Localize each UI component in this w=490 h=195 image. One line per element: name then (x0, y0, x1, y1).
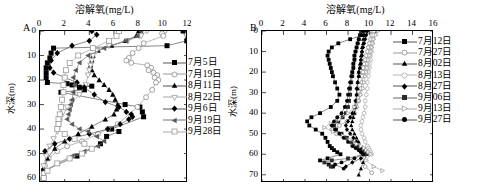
legend-marker-icon (163, 80, 187, 91)
panel-b: 溶解氧(mg/L) B 0246810121416 01020304050607… (245, 0, 490, 195)
legend-item[interactable]: 7月12日 (393, 36, 452, 47)
legend-item[interactable]: 7月27日 (393, 47, 452, 58)
y-tick-label: 30 (17, 99, 36, 109)
x-tick-label: 2 (61, 18, 66, 28)
y-tick-label: 50 (17, 148, 36, 158)
x-tick-label: 0 (37, 18, 42, 28)
legend-marker-icon (393, 81, 417, 92)
legend-label: 8月13日 (417, 70, 452, 81)
legend-item[interactable]: 7月5日 (163, 57, 222, 69)
legend-item[interactable]: 8月02日 (393, 58, 452, 69)
legend-label: 7月19日 (187, 69, 222, 80)
y-tick-label: 10 (17, 50, 36, 60)
panel-a: 溶解氧(mg/L) A 024681012 0102030405060 水深(m… (0, 0, 245, 195)
x-tick-label: 12 (386, 18, 395, 28)
legend-item[interactable]: 8月27日 (393, 81, 452, 92)
dissolved-oxygen-depth-profile-figure: 溶解氧(mg/L) A 024681012 0102030405060 水深(m… (0, 0, 490, 195)
legend-marker-icon (163, 103, 187, 114)
legend-label: 7月5日 (187, 57, 218, 68)
panel-a-y-axis-title: 水深(m) (4, 83, 17, 114)
legend-marker-icon (393, 58, 417, 69)
legend-label: 8月02日 (417, 58, 452, 69)
legend-label: 9月06日 (417, 92, 452, 103)
legend-label: 7月27日 (417, 47, 452, 58)
legend-marker-icon (393, 92, 417, 103)
x-tick-label: 6 (111, 18, 116, 28)
legend-marker-icon (163, 126, 187, 137)
y-tick-label: 60 (239, 148, 258, 158)
x-tick-label: 10 (158, 18, 167, 28)
y-tick-label: 50 (239, 128, 258, 138)
legend-label: 8月27日 (417, 81, 452, 92)
y-tick-label: 10 (239, 46, 258, 56)
y-tick-label: 40 (17, 123, 36, 133)
legend-marker-icon (163, 69, 187, 80)
x-tick-label: 4 (302, 18, 307, 28)
y-tick-label: 40 (239, 107, 258, 117)
y-tick-label: 60 (17, 172, 36, 182)
panel-b-legend: 7月12日7月27日8月02日8月13日8月27日9月06日9月13日9月27日 (393, 36, 452, 126)
legend-label: 8月22日 (187, 92, 222, 103)
legend-item[interactable]: 9月28日 (163, 126, 222, 138)
legend-item[interactable]: 7月19日 (163, 69, 222, 81)
y-tick-label: 0 (17, 25, 36, 35)
y-tick-label: 30 (239, 87, 258, 97)
panel-b-title: 溶解氧(mg/L) (233, 1, 478, 16)
panel-a-legend: 7月5日7月19日8月11日8月22日9月6日9月19日9月28日 (163, 57, 222, 138)
legend-item[interactable]: 9月19日 (163, 115, 222, 127)
legend-item[interactable]: 9月27日 (393, 114, 452, 125)
x-tick-label: 8 (135, 18, 140, 28)
legend-marker-icon (163, 92, 187, 103)
legend-marker-icon (393, 36, 417, 47)
legend-item[interactable]: 9月6日 (163, 103, 222, 115)
legend-label: 9月28日 (187, 126, 222, 137)
legend-label: 7月12日 (417, 36, 452, 47)
legend-label: 9月27日 (417, 114, 452, 125)
x-tick-label: 6 (323, 18, 328, 28)
legend-item[interactable]: 8月22日 (163, 92, 222, 104)
legend-label: 9月13日 (417, 103, 452, 114)
x-tick-label: 0 (259, 18, 264, 28)
x-tick-label: 12 (183, 18, 192, 28)
y-tick-label: 0 (239, 25, 258, 35)
legend-marker-icon (163, 115, 187, 126)
x-tick-label: 4 (86, 18, 91, 28)
legend-marker-icon (393, 114, 417, 125)
legend-item[interactable]: 8月11日 (163, 80, 222, 92)
legend-marker-icon (393, 47, 417, 58)
panel-a-title: 溶解氧(mg/L) (0, 1, 227, 16)
legend-item[interactable]: 9月13日 (393, 103, 452, 114)
legend-item[interactable]: 9月06日 (393, 92, 452, 103)
legend-marker-icon (163, 57, 187, 68)
legend-label: 9月6日 (187, 103, 218, 114)
legend-label: 9月19日 (187, 115, 222, 126)
panel-b-y-axis-title: 水深(m) (226, 86, 239, 117)
y-tick-label: 70 (239, 169, 258, 179)
legend-marker-icon (393, 70, 417, 81)
legend-item[interactable]: 8月13日 (393, 70, 452, 81)
x-tick-label: 10 (364, 18, 373, 28)
x-tick-label: 14 (407, 18, 416, 28)
y-tick-label: 20 (17, 74, 36, 84)
y-tick-label: 20 (239, 66, 258, 76)
x-tick-label: 8 (345, 18, 350, 28)
x-tick-label: 16 (429, 18, 438, 28)
x-tick-label: 2 (280, 18, 285, 28)
legend-marker-icon (393, 103, 417, 114)
legend-label: 8月11日 (187, 80, 222, 91)
